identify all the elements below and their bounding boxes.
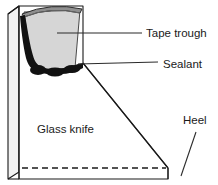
- diagram-canvas: Tape trough Sealant Heel Glass knife: [0, 0, 218, 185]
- sealant-bump-left: [30, 65, 46, 75]
- glass-knife-figure: Tape trough Sealant Heel Glass knife: [0, 0, 218, 185]
- label-tape-trough: Tape trough: [146, 27, 207, 39]
- leader-line-sealant: [78, 62, 158, 64]
- sealant-bump-mid: [46, 68, 64, 77]
- label-sealant: Sealant: [163, 58, 203, 70]
- label-glass-knife: Glass knife: [37, 123, 94, 135]
- sealant-bump-right: [64, 65, 80, 73]
- leader-line-heel: [181, 132, 196, 176]
- knife-side-face: [8, 6, 19, 179]
- label-heel: Heel: [183, 114, 207, 126]
